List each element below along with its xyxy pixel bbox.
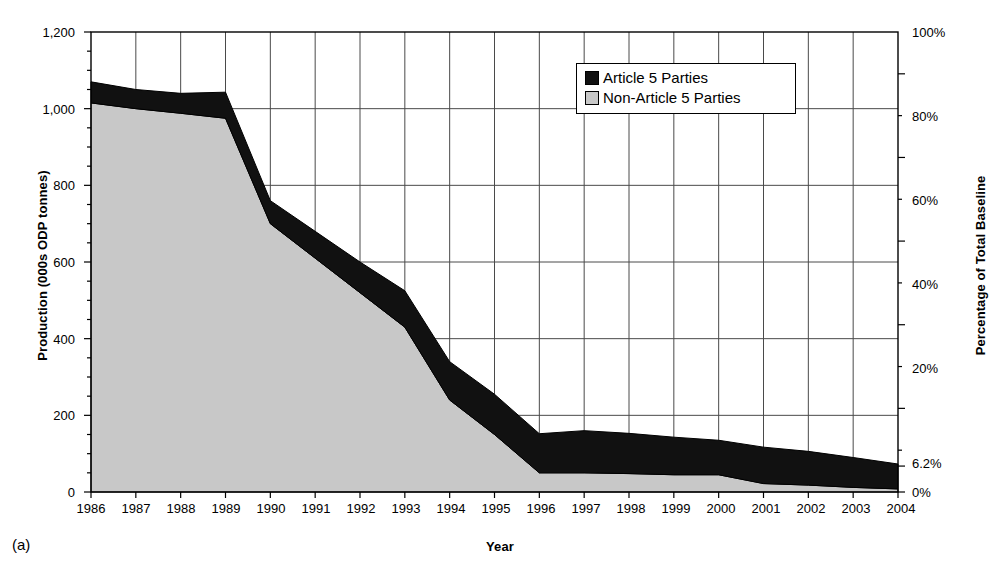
legend-entry-non-article-5: Non-Article 5 Parties	[585, 88, 788, 108]
legend-entry-article-5: Article 5 Parties	[585, 68, 788, 88]
legend-label-non-article-5: Non-Article 5 Parties	[603, 90, 741, 106]
legend-swatch-article-5-icon	[585, 71, 599, 85]
chart-figure: Production (000s ODP tonnes) Percentage …	[0, 0, 1000, 574]
plot-area	[0, 0, 1000, 574]
chart-legend: Article 5 Parties Non-Article 5 Parties	[576, 63, 796, 114]
legend-label-article-5: Article 5 Parties	[603, 70, 708, 86]
legend-swatch-non-article-5-icon	[585, 91, 599, 105]
